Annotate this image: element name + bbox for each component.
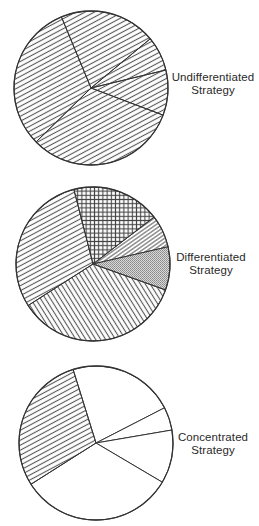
label-concentrated-strategy: Concentrated Strategy	[168, 431, 258, 457]
label-line-1: Concentrated	[168, 431, 258, 444]
label-line-1: Differentiated	[166, 251, 256, 264]
pie-undifferentiated-strategy	[14, 11, 168, 165]
pie-differentiated-strategy	[16, 187, 170, 341]
label-line-2: Strategy	[166, 264, 256, 277]
label-undifferentiated-strategy: Undifferentiated Strategy	[168, 71, 258, 97]
label-line-1: Undifferentiated	[168, 71, 258, 84]
label-line-2: Strategy	[168, 84, 258, 97]
pie-concentrated-strategy	[19, 366, 173, 520]
label-line-2: Strategy	[168, 444, 258, 457]
label-differentiated-strategy: Differentiated Strategy	[166, 251, 256, 277]
